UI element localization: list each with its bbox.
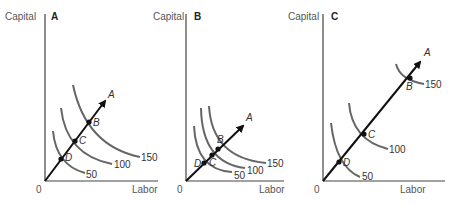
point-label-c: C xyxy=(79,135,87,146)
y-axis-label: Capital xyxy=(153,11,184,22)
point-label-d: D xyxy=(343,157,350,168)
y-axis-label: Capital xyxy=(288,11,319,22)
point-d xyxy=(58,156,63,161)
point-label-c: C xyxy=(368,129,376,140)
panel-title: B xyxy=(194,11,201,22)
isoquant-label-100: 100 xyxy=(247,165,264,176)
point-c xyxy=(361,131,366,136)
point-label-b: B xyxy=(93,117,100,128)
isoquant-label-50: 50 xyxy=(86,169,98,180)
point-d xyxy=(201,160,206,165)
isoquant-label-150: 150 xyxy=(425,79,442,90)
origin-label: 0 xyxy=(36,184,42,195)
origin-label: 0 xyxy=(177,184,183,195)
isoquant-label-50: 50 xyxy=(362,171,374,182)
x-axis-label: Labor xyxy=(400,184,426,195)
ray-label: A xyxy=(245,112,253,123)
isoquant-label-150: 150 xyxy=(267,158,284,169)
y-axis-label: Capital xyxy=(5,11,36,22)
isoquant-label-100: 100 xyxy=(389,144,406,155)
point-label-b: B xyxy=(406,81,413,92)
point-label-d: D xyxy=(65,152,72,163)
isoquant-label-50: 50 xyxy=(234,170,246,181)
returns-to-scale-figure: Capital A 0 Labor 50 100 150 A D C B Cap… xyxy=(0,0,459,205)
point-c xyxy=(72,138,77,143)
panel-b: Capital B 0 Labor 50 100 150 A D C B xyxy=(153,11,285,195)
panel-c: Capital C 0 Labor 50 100 150 A D C B xyxy=(288,11,445,195)
isoquant-50 xyxy=(331,123,360,177)
isoquant-label-150: 150 xyxy=(141,152,158,163)
point-d xyxy=(336,159,341,164)
x-axis-label: Labor xyxy=(259,184,285,195)
point-label-d: D xyxy=(194,158,201,169)
isoquant-150 xyxy=(73,85,140,157)
point-b xyxy=(86,119,91,124)
point-b xyxy=(407,75,412,80)
isoquant-label-100: 100 xyxy=(114,159,131,170)
point-b xyxy=(215,146,220,151)
panel-title: C xyxy=(331,11,338,22)
origin-label: 0 xyxy=(314,184,320,195)
ray-label: A xyxy=(423,47,431,58)
panel-title: A xyxy=(51,11,58,22)
x-axis-label: Labor xyxy=(132,184,158,195)
ray-label: A xyxy=(107,89,115,100)
panel-a: Capital A 0 Labor 50 100 150 A D C B xyxy=(5,11,158,195)
point-label-c: C xyxy=(209,157,217,168)
point-label-b: B xyxy=(217,134,224,145)
